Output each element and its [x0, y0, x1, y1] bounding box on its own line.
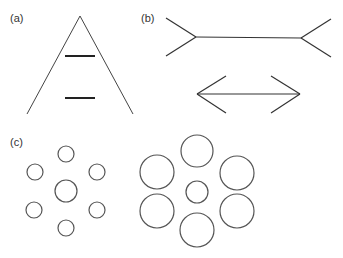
muller-lyer-fins-in [197, 76, 300, 113]
ponzo-converging-lines [27, 16, 133, 114]
ebbinghaus-center-right [186, 181, 208, 203]
ebbinghaus-illusion [26, 135, 254, 247]
illusion-figure [0, 0, 343, 258]
ebbinghaus-large-surround [140, 135, 254, 247]
ponzo-illusion [27, 16, 133, 114]
muller-lyer-illusion [166, 18, 331, 113]
muller-lyer-fins-out [166, 18, 331, 57]
ebbinghaus-center-left [55, 180, 77, 202]
ebbinghaus-small-surround [26, 146, 105, 236]
